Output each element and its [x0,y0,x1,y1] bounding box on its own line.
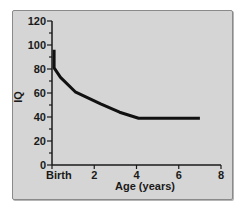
x-axis: Birth2468 [46,165,224,181]
x-tick-label: 8 [218,169,224,181]
y-tick-label: 20 [34,135,46,147]
y-tick-label: 80 [34,63,46,75]
x-tick-label: 6 [176,169,182,181]
y-tick-label: 60 [34,87,46,99]
y-tick-label: 120 [28,15,46,27]
y-tick-label: 100 [28,39,46,51]
x-tick-label: 2 [91,169,97,181]
x-tick-label: Birth [46,169,72,181]
iq-curve [54,50,200,118]
y-axis: 020406080100120 [28,15,52,171]
x-axis-title: Age (years) [115,180,175,192]
y-axis-title: IQ [12,91,24,103]
y-tick-label: 40 [34,111,46,123]
line-chart: 020406080100120 Birth2468 IQ Age (years) [0,0,244,209]
